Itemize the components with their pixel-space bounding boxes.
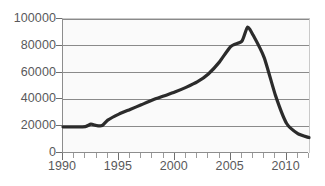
x-axis-tick-label: 1995: [104, 160, 132, 173]
x-axis-tick-label: 2005: [216, 160, 244, 173]
line-chart: 020000400006000080000100000 199019952000…: [0, 0, 325, 186]
x-axis-tick-label: 2010: [272, 160, 300, 173]
x-axis-tick-label: 2000: [160, 160, 188, 173]
x-axis-tick-labels: 19901995200020052010: [0, 160, 325, 180]
x-axis-tick-label: 1990: [48, 160, 76, 173]
